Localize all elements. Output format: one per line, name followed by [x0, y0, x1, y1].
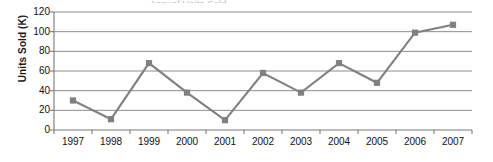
y-axis-ticks — [50, 12, 54, 130]
gridlines — [54, 12, 472, 110]
plot-area — [0, 0, 493, 162]
line-chart-figure: Annual Units Sold Units Sold (K) 0204060… — [0, 0, 493, 162]
x-axis-ticks — [54, 130, 472, 134]
data-point-markers — [70, 22, 456, 124]
